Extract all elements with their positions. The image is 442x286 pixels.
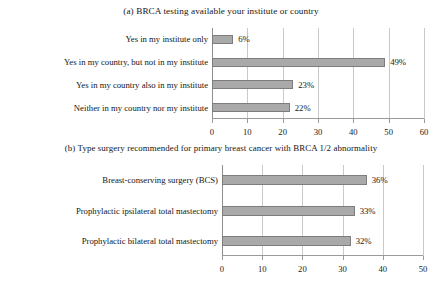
x-axis-line [212,118,424,119]
bar [222,206,355,216]
x-tick-label-30: 30 [314,127,323,137]
category-label: Breast-conserving surgery (BCS) [102,176,218,185]
x-tick-60 [424,119,425,123]
x-tick-label-60: 60 [420,127,429,137]
bar [222,236,351,246]
x-tick-10 [262,256,263,260]
bar-value-label: 32% [356,236,372,246]
chart-a-category-labels: Yes in my institute onlyYes in my countr… [0,22,212,140]
bar-value-label: 23% [298,80,314,90]
category-label: Prophylactic bilateral total mastectomy [82,236,218,245]
chart-a-bars-container: 6%49%23%22% [212,28,424,119]
gridline-50 [423,165,424,256]
bar-value-label: 6% [238,34,250,44]
bar-row: 6% [212,31,424,47]
x-tick-label-40: 40 [379,264,388,274]
category-label: Yes in my country, but not in my institu… [64,58,208,67]
bar-value-label: 49% [390,57,406,67]
x-tick-label-10: 10 [243,127,252,137]
x-tick-0 [222,256,223,260]
bar [212,58,385,67]
chart-b-bars-container: 36%33%32% [222,165,423,256]
x-tick-label-30: 30 [338,264,347,274]
bar-row: 49% [212,54,424,70]
x-tick-label-50: 50 [384,127,393,137]
bar [222,175,367,185]
chart-b-plot-area: 36%33%32% 01020304050 [222,158,423,286]
x-tick-label-20: 20 [298,264,307,274]
bar-row: 22% [212,100,424,116]
bar-row: 23% [212,77,424,93]
x-tick-50 [423,256,424,260]
bar-value-label: 22% [295,103,311,113]
x-tick-label-50: 50 [419,264,428,274]
x-tick-label-0: 0 [210,127,214,137]
x-tick-50 [389,119,390,123]
bar [212,80,293,89]
x-tick-40 [383,256,384,260]
chart-b-title: (b) Type surgery recommended for primary… [0,143,442,153]
figure-page: (a) BRCA testing available your institut… [0,0,442,286]
chart-b-category-labels: Breast-conserving surgery (BCS)Prophylac… [0,158,222,286]
x-tick-label-40: 40 [349,127,358,137]
chart-a: Yes in my institute onlyYes in my countr… [0,22,442,140]
chart-a-plot-area: 6%49%23%22% 0102030405060 [212,22,424,140]
bar [212,35,233,44]
x-tick-0 [212,119,213,123]
category-label: Prophylactic ipsilateral total mastectom… [76,206,218,215]
x-tick-30 [343,256,344,260]
bar-value-label: 36% [372,175,388,185]
category-label: Yes in my institute only [125,35,208,44]
bar [212,103,290,112]
x-axis-line [222,255,423,256]
bar-row: 32% [222,233,423,249]
x-tick-10 [247,119,248,123]
x-tick-20 [283,119,284,123]
bar-row: 33% [222,203,423,219]
x-tick-40 [353,119,354,123]
bar-row: 36% [222,172,423,188]
x-tick-30 [318,119,319,123]
chart-a-title: (a) BRCA testing available your institut… [0,6,442,16]
x-tick-label-0: 0 [220,264,224,274]
x-tick-label-20: 20 [278,127,287,137]
x-tick-20 [302,256,303,260]
x-tick-label-10: 10 [258,264,267,274]
chart-b: Breast-conserving surgery (BCS)Prophylac… [0,158,442,286]
gridline-60 [424,28,425,119]
category-label: Yes in my country also in my institute [76,81,208,90]
bar-value-label: 33% [360,206,376,216]
category-label: Neither in my country nor my institute [74,103,208,112]
